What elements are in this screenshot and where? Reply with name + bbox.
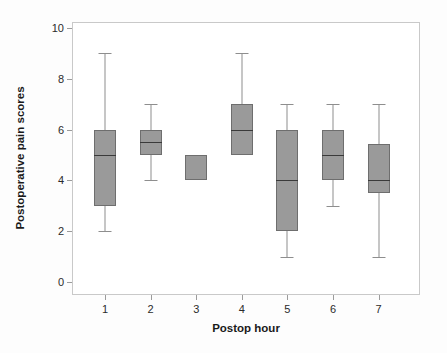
- boxplot-box-group: [140, 22, 162, 295]
- y-tick-label: 4: [58, 175, 64, 186]
- lower-whisker-cap: [99, 231, 112, 232]
- lower-whisker-line: [287, 231, 288, 256]
- upper-whisker-cap: [235, 53, 248, 54]
- x-tick-mark: [105, 295, 106, 300]
- y-tick-label: 8: [58, 73, 64, 84]
- boxplot-median-line: [322, 155, 344, 156]
- y-tick-label: 10: [52, 23, 64, 34]
- x-tick-label: 5: [284, 304, 290, 315]
- boxplot-box: [94, 130, 116, 206]
- boxplot-median-line: [276, 180, 298, 181]
- boxplot-median-line: [140, 142, 162, 143]
- x-tick-mark: [151, 295, 152, 300]
- x-tick-label: 3: [193, 304, 199, 315]
- upper-whisker-line: [105, 53, 106, 129]
- upper-whisker-line: [150, 104, 151, 129]
- x-tick-mark: [196, 295, 197, 300]
- boxplot-box-group: [185, 22, 207, 295]
- y-tick-mark: [67, 180, 72, 181]
- x-tick-mark: [379, 295, 380, 300]
- plot-area: 0246810 1234567: [72, 22, 420, 295]
- boxplot-box-group: [368, 22, 390, 295]
- upper-whisker-line: [241, 53, 242, 104]
- boxplot-box: [185, 155, 207, 180]
- y-tick-label: 2: [58, 226, 64, 237]
- lower-whisker-line: [378, 193, 379, 257]
- y-tick-mark: [67, 130, 72, 131]
- upper-whisker-line: [378, 104, 379, 143]
- lower-whisker-cap: [372, 257, 385, 258]
- boxplot-box-group: [94, 22, 116, 295]
- x-tick-label: 1: [102, 304, 108, 315]
- x-tick-label: 7: [376, 304, 382, 315]
- lower-whisker-cap: [327, 206, 340, 207]
- upper-whisker-line: [287, 104, 288, 129]
- boxplot-box-group: [276, 22, 298, 295]
- x-tick-label: 6: [330, 304, 336, 315]
- upper-whisker-cap: [144, 104, 157, 105]
- x-tick-mark: [242, 295, 243, 300]
- boxplot-median-line: [368, 180, 390, 181]
- y-tick-label: 6: [58, 124, 64, 135]
- x-tick-mark: [333, 295, 334, 300]
- boxplot-box-group: [322, 22, 344, 295]
- upper-whisker-cap: [372, 104, 385, 105]
- y-tick-mark: [67, 79, 72, 80]
- lower-whisker-line: [150, 155, 151, 180]
- upper-whisker-cap: [281, 104, 294, 105]
- boxplot-figure: 0246810 1234567 Postop hour Postoperativ…: [0, 0, 447, 353]
- boxplot-box-group: [231, 22, 253, 295]
- x-tick-label: 4: [239, 304, 245, 315]
- y-tick-mark: [67, 282, 72, 283]
- upper-whisker-cap: [327, 104, 340, 105]
- y-axis-title: Postoperative pain scores: [14, 86, 26, 229]
- upper-whisker-cap: [99, 53, 112, 54]
- lower-whisker-cap: [281, 257, 294, 258]
- boxplot-box: [368, 144, 390, 194]
- x-axis-title: Postop hour: [72, 322, 420, 334]
- boxplot-median-line: [231, 130, 253, 131]
- x-tick-label: 2: [148, 304, 154, 315]
- lower-whisker-line: [333, 180, 334, 205]
- upper-whisker-line: [333, 104, 334, 129]
- lower-whisker-line: [105, 206, 106, 231]
- boxplot-median-line: [94, 155, 116, 156]
- lower-whisker-cap: [144, 180, 157, 181]
- x-tick-mark: [287, 295, 288, 300]
- y-tick-mark: [67, 231, 72, 232]
- y-tick-mark: [67, 28, 72, 29]
- y-tick-label: 0: [58, 277, 64, 288]
